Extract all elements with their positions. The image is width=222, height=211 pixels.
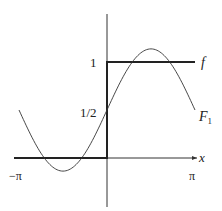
tick-label-half: 1/2: [80, 105, 97, 120]
label-x: x: [198, 150, 205, 165]
step-function-f: [14, 62, 195, 158]
x-axis-arrow-icon: [192, 156, 197, 160]
tick-label-pi: π: [189, 169, 195, 183]
label-f: f: [201, 55, 207, 70]
fourier-step-figure: f F1 x 1 1/2 −π π: [0, 0, 222, 211]
label-F1: F1: [198, 109, 212, 126]
tick-label-one: 1: [90, 55, 97, 70]
tick-label-neg-pi: −π: [9, 169, 22, 183]
